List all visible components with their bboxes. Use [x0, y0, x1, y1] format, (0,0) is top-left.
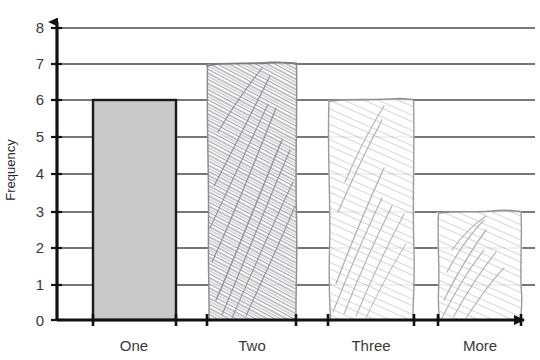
- category-label-two: Two: [238, 337, 266, 354]
- bar-chart-figure: 8 7 6 5 4 3 2 1 0 One Two Three More Fre…: [0, 0, 540, 360]
- bar-one-rect[interactable]: [93, 100, 176, 320]
- x-category-labels: One Two Three More: [120, 337, 497, 354]
- bar-two[interactable]: [207, 62, 297, 320]
- category-label-three: Three: [351, 337, 390, 354]
- bar-two-hatch-fill: [207, 63, 297, 320]
- y-tick-label-0: 0: [36, 312, 44, 329]
- y-tick-label-8: 8: [36, 19, 44, 36]
- y-tick-label-7: 7: [36, 55, 44, 72]
- y-tick-label-6: 6: [36, 91, 44, 108]
- bar-more[interactable]: [437, 210, 523, 320]
- bar-two-right-edge: [296, 64, 297, 321]
- y-axis-title: Frequency: [3, 139, 18, 201]
- bar-one[interactable]: [93, 100, 176, 320]
- category-label-one: One: [120, 337, 148, 354]
- bar-three-hatch-fill: [328, 99, 415, 320]
- chart-canvas: 8 7 6 5 4 3 2 1 0 One Two Three More Fre…: [0, 0, 540, 360]
- bar-three[interactable]: [328, 99, 415, 320]
- y-tick-label-5: 5: [36, 128, 44, 145]
- y-tick-label-2: 2: [36, 239, 44, 256]
- y-tick-label-1: 1: [36, 276, 44, 293]
- category-label-more: More: [463, 337, 497, 354]
- y-tick-label-4: 4: [36, 165, 44, 182]
- y-tick-label-3: 3: [36, 203, 44, 220]
- y-tick-labels: 8 7 6 5 4 3 2 1 0: [36, 19, 44, 329]
